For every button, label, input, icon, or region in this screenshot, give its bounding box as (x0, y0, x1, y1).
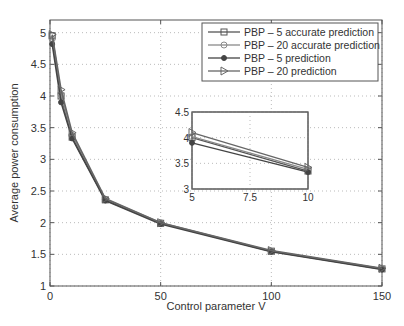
y-tick-label: 2.5 (31, 185, 46, 197)
inset-y-tick-label: 3.5 (175, 158, 189, 169)
y-tick-label: 3 (40, 153, 46, 165)
legend-label: PBP – 5 accurate prediction (244, 26, 374, 38)
x-tick-label: 150 (373, 290, 391, 302)
y-tick-label: 1 (40, 280, 46, 292)
inset-y-tick-label: 4.5 (175, 107, 189, 118)
line-chart: 11.522.533.544.55050100150Control parame… (0, 0, 404, 326)
legend-label: PBP – 5 prediction (244, 52, 331, 64)
inset-chart: 33.544.557.510 (175, 107, 314, 203)
y-tick-label: 3.5 (31, 122, 46, 134)
y-axis-label: Average power consumption (8, 83, 20, 222)
inset-x-tick-label: 5 (189, 192, 195, 203)
x-tick-label: 0 (47, 290, 53, 302)
dot-marker (222, 56, 227, 61)
y-tick-label: 4.5 (31, 58, 46, 70)
legend: PBP – 5 accurate predictionPBP – 20 accu… (202, 23, 380, 81)
inset-x-tick-label: 10 (302, 192, 314, 203)
legend-label: PBP – 20 prediction (244, 65, 337, 77)
dot-marker (59, 100, 64, 105)
y-tick-label: 1.5 (31, 248, 46, 260)
y-tick-label: 4 (40, 90, 46, 102)
x-tick-label: 50 (155, 290, 167, 302)
x-axis-label: Control parameter V (166, 300, 266, 312)
legend-label: PBP – 20 accurate prediction (244, 39, 380, 51)
dot-marker (190, 140, 195, 145)
y-tick-label: 5 (40, 27, 46, 39)
inset-x-tick-label: 7.5 (243, 192, 257, 203)
y-tick-label: 2 (40, 217, 46, 229)
